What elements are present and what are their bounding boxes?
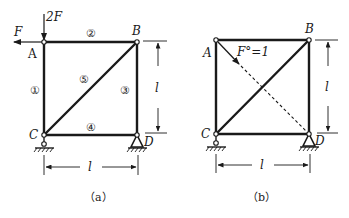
truss-diagram: 2F F A B C D ② ① ③ ④ ⑤ l l （a） [0, 0, 349, 218]
node-c-label: C [201, 127, 210, 141]
node-c-label: C [29, 128, 38, 142]
figure-b: A B C D F°=1 l l （b） [201, 22, 338, 204]
dimension-vertical-label: l [325, 80, 329, 94]
node-b-label: B [131, 24, 141, 38]
node-c-icon [42, 133, 46, 137]
member-3-label: ③ [120, 84, 130, 97]
dimension-vertical-label: l [155, 81, 159, 95]
node-d-icon [307, 132, 311, 136]
caption-a: （a） [84, 191, 113, 204]
node-d-label: D [143, 135, 154, 149]
unit-force-label: F°=1 [236, 45, 269, 59]
node-b-label: B [304, 22, 314, 36]
node-a-label: A [27, 47, 37, 61]
node-c-icon [214, 132, 218, 136]
member-5-label: ⑤ [79, 73, 89, 86]
caption-b: （b） [247, 191, 276, 204]
node-a-label: A [202, 46, 212, 60]
figure-a: 2F F A B C D ② ① ③ ④ ⑤ l l （a） [13, 10, 168, 204]
node-d-icon [135, 133, 139, 137]
member-1-label: ① [30, 84, 40, 97]
member-4-label: ④ [86, 121, 96, 134]
load-f-label: F [13, 25, 23, 39]
node-b-icon [135, 40, 139, 44]
unit-force-arrow-icon [218, 42, 239, 64]
dimension-horizontal-label: l [88, 160, 92, 174]
dimension-horizontal-label: l [260, 158, 264, 172]
load-2f-label: 2F [45, 10, 63, 24]
member-2-label: ② [86, 27, 96, 40]
node-d-label: D [314, 134, 325, 148]
node-a-icon [42, 40, 46, 44]
node-a-icon [214, 38, 218, 42]
node-b-icon [307, 38, 311, 42]
